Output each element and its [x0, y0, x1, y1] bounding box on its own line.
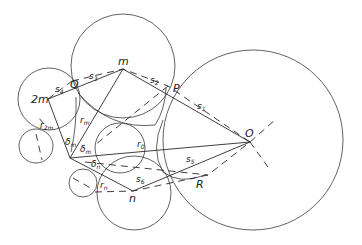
- label-s1: s1: [197, 101, 206, 112]
- label-s6: s6: [136, 174, 145, 185]
- label-s2: s2: [150, 75, 159, 86]
- dashed-small-lower: [73, 178, 94, 190]
- dashed-O-upper: [250, 120, 275, 142]
- label-R: R: [196, 178, 204, 191]
- label-s4: s4: [55, 84, 64, 95]
- label-rn: rn: [100, 180, 108, 191]
- label-delta-m-2: δm: [80, 144, 92, 155]
- label-O: O: [245, 127, 254, 140]
- dashed-Q-m-P-O: [72, 69, 250, 142]
- label-s3: s3: [89, 71, 98, 82]
- dashed-small-left: [36, 134, 42, 160]
- label-delta-n: δn: [91, 159, 101, 170]
- label-delta-m-1: δm: [65, 137, 77, 148]
- line-r0: [70, 142, 250, 158]
- label-2m: 2m: [31, 93, 49, 106]
- geometry-diagram: O m 2m n P Q R s1 s2 s3 s4 s5 s6 r0 rm r…: [0, 0, 362, 245]
- label-s5: s5: [186, 154, 195, 165]
- circle-O: [163, 50, 343, 230]
- label-r2m: r2m: [40, 120, 54, 131]
- dashed-O-lower: [250, 142, 268, 167]
- label-P: P: [173, 82, 180, 95]
- dashed-n-R-O: [95, 142, 250, 192]
- small-circle-lower: [69, 169, 97, 197]
- label-Q: Q: [70, 78, 79, 91]
- label-m: m: [118, 55, 129, 68]
- label-rm: rm: [80, 115, 90, 126]
- label-n: n: [129, 192, 136, 205]
